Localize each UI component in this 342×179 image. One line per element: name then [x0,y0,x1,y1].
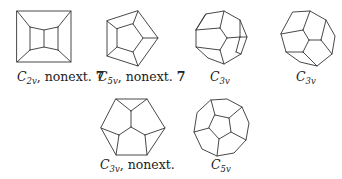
symmetry-letter: C [296,69,306,84]
graph-c5v-pentagon [107,11,158,66]
graph-c3v-b [281,11,335,66]
symmetry-subscript: 2v [27,76,37,86]
symmetry-subscript: 5v [221,164,231,174]
symmetry-subscript: 3v [306,76,316,86]
symmetry-subscript: 3v [220,76,230,86]
graph-c3v-nonext [101,99,165,155]
reference-number: 7 [177,69,186,84]
graph-c3v-a [196,11,247,64]
graph-label-5: C3v, nonext. [100,157,175,174]
symmetry-letter: C [98,69,108,84]
graph-c2v-square [17,11,71,62]
graph-label-3: C3v [210,69,230,86]
symmetry-letter: C [100,157,110,172]
graph-c5v-round [194,99,249,156]
label-suffix: , nonext. [37,69,96,84]
graph-label-6: C5v [211,157,231,174]
symmetry-letter: C [210,69,220,84]
label-suffix: , nonext. [118,69,177,84]
symmetry-letter: C [211,157,221,172]
symmetry-subscript: 3v [110,164,120,174]
symmetry-subscript: 5v [108,76,118,86]
symmetry-letter: C [17,69,27,84]
graph-figure [0,0,342,179]
graph-label-2: C5v, nonext. 7 [98,69,186,86]
graph-label-4: C3v [296,69,316,86]
label-suffix: , nonext. [120,157,175,172]
graph-label-1: C2v, nonext. 7 [17,69,105,86]
